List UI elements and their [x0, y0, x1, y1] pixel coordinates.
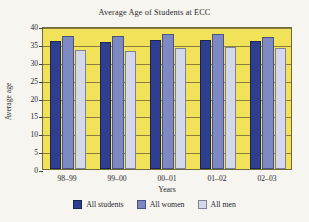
y-tick-label: 20	[30, 96, 38, 104]
bar[interactable]	[275, 48, 287, 169]
bar[interactable]	[50, 41, 62, 169]
chart-legend: All studentsAll womenAll men	[0, 200, 309, 209]
x-tick-label: 02–03	[258, 174, 277, 183]
y-tick-mark	[39, 100, 43, 101]
bar[interactable]	[225, 47, 237, 169]
y-tick-label: 5	[34, 149, 38, 157]
bar[interactable]	[175, 48, 187, 169]
bar-group	[200, 28, 237, 169]
legend-swatch-icon	[198, 200, 207, 209]
bar-group	[50, 28, 87, 169]
legend-label: All women	[150, 200, 185, 209]
y-tick-mark	[39, 28, 43, 29]
chart-title: Average Age of Students at ECC	[0, 8, 309, 17]
legend-item[interactable]: All men	[198, 200, 236, 209]
bar[interactable]	[125, 51, 137, 169]
bar[interactable]	[162, 34, 174, 169]
bar[interactable]	[150, 40, 162, 169]
bar[interactable]	[262, 37, 274, 169]
x-tick-label: 01–02	[208, 174, 227, 183]
legend-label: All students	[86, 200, 123, 209]
y-tick-label: 35	[30, 42, 38, 50]
legend-item[interactable]: All women	[137, 200, 185, 209]
plot-area: 0510152025303540	[42, 27, 292, 170]
legend-label: All men	[211, 200, 236, 209]
y-tick-mark	[39, 117, 43, 118]
bar[interactable]	[212, 34, 224, 169]
y-axis-title-text: Average age	[5, 82, 14, 120]
y-tick-label: 10	[30, 131, 38, 139]
legend-swatch-icon	[73, 200, 82, 209]
chart-figure: Average Age of Students at ECC Average a…	[0, 0, 309, 222]
x-tick-label: 00–01	[158, 174, 177, 183]
legend-item[interactable]: All students	[73, 200, 123, 209]
bar[interactable]	[112, 36, 124, 169]
y-tick-label: 25	[30, 78, 38, 86]
bar-group	[100, 28, 137, 169]
x-tick-label: 98–99	[58, 174, 77, 183]
bar[interactable]	[200, 40, 212, 169]
y-tick-mark	[39, 171, 43, 172]
x-axis-title: Years	[42, 185, 292, 194]
bar[interactable]	[62, 36, 74, 169]
y-tick-label: 15	[30, 114, 38, 122]
y-tick-mark	[39, 82, 43, 83]
y-tick-mark	[39, 153, 43, 154]
y-tick-mark	[39, 46, 43, 47]
y-tick-mark	[39, 64, 43, 65]
bar[interactable]	[75, 50, 87, 169]
y-tick-label: 40	[30, 24, 38, 32]
x-tick-label: 99–00	[108, 174, 127, 183]
y-tick-label: 30	[30, 60, 38, 68]
bar[interactable]	[100, 42, 112, 169]
bar[interactable]	[250, 41, 262, 169]
legend-swatch-icon	[137, 200, 146, 209]
bar-group	[150, 28, 187, 169]
y-tick-label: 0	[34, 167, 38, 175]
y-axis-title: Average age	[2, 58, 16, 144]
bar-group	[250, 28, 287, 169]
y-tick-mark	[39, 135, 43, 136]
